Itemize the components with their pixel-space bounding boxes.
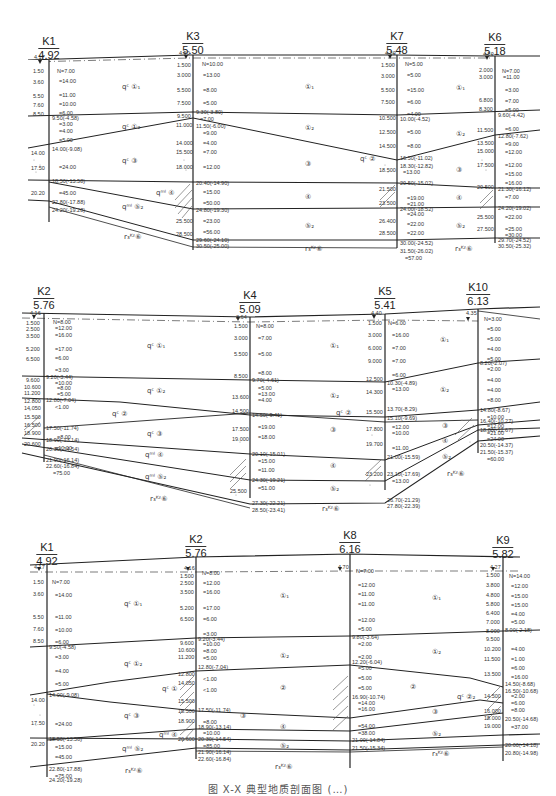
n-value: =24.00 xyxy=(59,164,76,170)
depth-value: 27.500 xyxy=(477,226,494,232)
n-value: =10.00 xyxy=(55,627,72,633)
borehole-label: K9 5.82 xyxy=(492,535,513,560)
depth-value: 13.600 xyxy=(232,394,249,400)
depth-value: 14.050 xyxy=(24,405,41,411)
depth-value: 7.500 xyxy=(177,100,191,106)
depth-value: 3.000 xyxy=(234,335,248,341)
boundary-value: 20.30(-14.54) xyxy=(198,736,231,742)
boundary-value: 12.80(-7.04) xyxy=(198,664,228,670)
borehole-label: K10 6.13 xyxy=(466,282,490,307)
n-value: =5.00 xyxy=(487,326,501,332)
n-value: =2.00 xyxy=(487,366,501,372)
n-value: N=14.00 xyxy=(509,573,530,579)
n-value: =5.00 xyxy=(258,351,272,357)
depth-value: 10.600 xyxy=(178,647,195,653)
layer-label: ①₁ xyxy=(305,83,314,91)
n-value: N=7.00 xyxy=(52,579,70,585)
boundary-value: 16.90(-10.74) xyxy=(352,694,385,700)
layer-label: ⑤₂ xyxy=(456,222,465,230)
n-value: =4.00 xyxy=(487,387,501,393)
depth-value: 11.200 xyxy=(24,390,40,396)
n-value: =12.00 xyxy=(358,617,375,623)
depth-value: 3.000 xyxy=(479,74,493,80)
layer-label: ①₁ xyxy=(440,336,449,344)
layer-label: qᶜ ②₂ xyxy=(457,693,475,701)
boundary-value: 14.50(-9.41) xyxy=(252,412,282,418)
boundary-value: 20.10(-15.01) xyxy=(252,451,285,457)
layer-label: ①₁ xyxy=(456,84,465,92)
layer-label: qᵐˡ ⑤₂ xyxy=(145,473,166,481)
boundary-value: 12.80(-7.04) xyxy=(46,397,76,403)
n-value: =8.00 xyxy=(487,397,501,403)
layer-label: ③ xyxy=(240,712,246,720)
n-value: =6.00 xyxy=(55,355,69,361)
boundary-value: 9.20(-3.44) xyxy=(46,374,73,380)
depth-value: 3.60 xyxy=(33,79,44,85)
n-value: =16.00 xyxy=(203,589,220,595)
depth-value: 12.800 xyxy=(24,398,41,404)
depth-value: 8.300 xyxy=(479,106,493,112)
depth-value: 14.000 xyxy=(176,140,193,146)
layer-label: qᶜ ③ xyxy=(124,712,140,720)
depth-value: 8.50 xyxy=(33,638,44,644)
n-value: =6.00 xyxy=(511,665,525,671)
boundary-value: 24.20(-19.02) xyxy=(498,205,531,211)
depth-value: 1.500 xyxy=(234,323,248,329)
boundary-value: 30.50(-25.32) xyxy=(498,243,531,249)
n-value: =7.00 xyxy=(392,345,406,351)
boundary-value: 12.80(-7.62) xyxy=(498,133,528,139)
depth-value: 18.000 xyxy=(484,715,501,721)
depth-value: 5.50 xyxy=(33,93,44,99)
borehole-label: K8 6.16 xyxy=(339,530,360,555)
depth-value: 18.900 xyxy=(178,718,195,724)
n-value: =17.00 xyxy=(203,605,220,611)
depth-value: 21.500 xyxy=(379,186,396,192)
n-value: =6.00 xyxy=(203,616,217,622)
boundary-value: 20.50(-14.68) xyxy=(505,716,538,722)
water-level-value: 4.17 xyxy=(34,564,45,570)
layer-label: r₃ᴷᶻ⑥ xyxy=(447,470,464,478)
depth-value: 14.500 xyxy=(484,693,501,699)
n-value: =45.00 xyxy=(59,190,76,196)
n-value: =11.00 xyxy=(358,591,375,597)
depth-value: 1.500 xyxy=(368,320,382,326)
n-value: =16.00 xyxy=(392,332,409,338)
n-value: =4.00 xyxy=(203,140,217,146)
boundary-value: 14.00(-9.08) xyxy=(49,692,79,698)
layer-label: ⑤₂ xyxy=(432,730,441,738)
depth-value: 25.500 xyxy=(230,488,247,494)
n-value: =4.00 xyxy=(511,646,525,652)
depth-value: 16.500 xyxy=(24,422,41,428)
n-value: =57.00 xyxy=(405,255,422,261)
depth-value: 9.000 xyxy=(368,358,382,364)
boundary-value: 10.00(-4.52) xyxy=(400,116,430,122)
boundary-value: 21.50(-15.37) xyxy=(480,449,513,455)
n-value: =15.00 xyxy=(203,189,220,195)
n-value: =3.00 xyxy=(59,121,73,127)
boundary-value: 18.80(-12.67) xyxy=(480,427,513,433)
boundary-value: 9.30(-3.80) xyxy=(196,109,223,115)
layer-label: ④ xyxy=(305,193,311,201)
depth-value: 9.500 xyxy=(177,113,191,119)
profile-1-drawing xyxy=(0,0,556,265)
n-value: =22.00 xyxy=(407,230,424,236)
depth-value: 8.500 xyxy=(234,373,248,379)
depth-value: 6.800 xyxy=(479,97,493,103)
depth-value: 3.500 xyxy=(180,589,194,595)
boundary-value: 9.20(-3.44) xyxy=(198,636,225,642)
n-value: =5.00 xyxy=(203,655,217,661)
n-value: =12.00 xyxy=(505,149,522,155)
layer-label: ④ xyxy=(330,462,336,470)
n-value: =4.00 xyxy=(511,611,525,617)
depth-value: 15.500 xyxy=(24,414,41,420)
depth-value: 8.50 xyxy=(33,111,44,117)
layer-label: ④ xyxy=(280,723,286,731)
n-value: =3.00 xyxy=(505,87,519,93)
boundary-value: 16.50(-10.68) xyxy=(505,688,538,694)
layer-label: ①₁ xyxy=(330,342,339,350)
depth-value: 1.500 xyxy=(486,572,500,578)
depth-value: 11.000 xyxy=(176,122,192,128)
layer-label: ⑤₂ xyxy=(442,453,451,461)
n-value: =15.00 xyxy=(55,744,72,750)
boundary-value: 14.00(-9.08) xyxy=(52,146,82,152)
